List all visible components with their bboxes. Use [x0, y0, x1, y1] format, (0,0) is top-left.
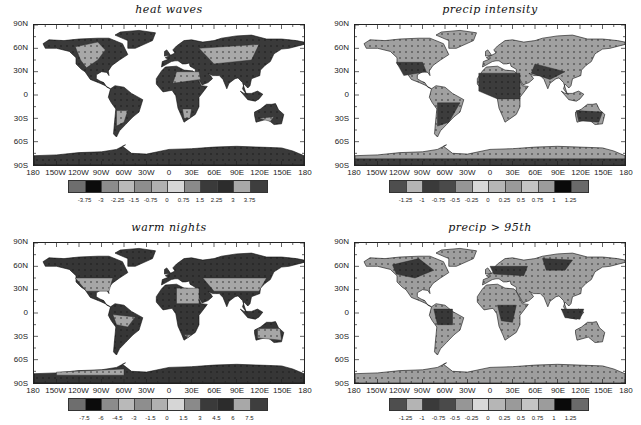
y-tick-label: 0	[2, 90, 28, 99]
colorbar-swatch	[456, 181, 473, 192]
colorbar-swatch	[218, 399, 235, 410]
colorbar-swatch	[69, 399, 86, 410]
colorbar	[68, 398, 268, 411]
y-tick-label: 60S	[2, 137, 28, 146]
y-tick-label: 30S	[323, 114, 349, 123]
y-tick-label: 0	[323, 90, 349, 99]
colorbar-swatch	[234, 181, 251, 192]
colorbar-swatch	[407, 181, 424, 192]
chart-title: precip intensity	[354, 3, 626, 16]
map-plot-area	[33, 242, 305, 384]
map-plot-area	[354, 242, 626, 384]
colorbar-swatch	[407, 399, 424, 410]
colorbar-swatch	[423, 181, 440, 192]
colorbar-label: 1.25	[561, 197, 581, 203]
colorbar-swatch	[86, 181, 103, 192]
colorbar-swatch	[119, 399, 136, 410]
y-tick-label: 30N	[323, 66, 349, 75]
y-tick-label: 90N	[323, 237, 349, 246]
colorbar-swatch	[539, 181, 556, 192]
y-tick-label: 30N	[2, 66, 28, 75]
colorbar-swatch	[539, 399, 556, 410]
colorbar	[68, 180, 268, 193]
colorbar-swatch	[185, 181, 202, 192]
colorbar-swatch	[572, 181, 589, 192]
colorbar-swatch	[440, 399, 457, 410]
map-plot-area	[33, 24, 305, 166]
colorbar-swatch	[489, 399, 506, 410]
colorbar-swatch	[506, 399, 523, 410]
x-tick-label: 180	[611, 386, 641, 395]
y-tick-label: 30S	[2, 332, 28, 341]
colorbar	[389, 180, 589, 193]
colorbar-swatch	[119, 181, 136, 192]
y-tick-label: 0	[323, 308, 349, 317]
colorbar-swatch	[152, 181, 169, 192]
x-tick-label: 180	[290, 386, 320, 395]
colorbar-swatch	[69, 181, 86, 192]
chart-title: heat waves	[33, 3, 305, 16]
y-tick-label: 60N	[2, 43, 28, 52]
y-tick-label: 60S	[323, 137, 349, 146]
colorbar-swatch	[489, 181, 506, 192]
y-tick-label: 90N	[323, 19, 349, 28]
colorbar-swatch	[168, 181, 185, 192]
y-tick-label: 30N	[2, 284, 28, 293]
panel-heat-waves: heat waves 90N60N30N030S60S90S180150W120…	[0, 0, 320, 212]
colorbar-swatch	[473, 181, 490, 192]
colorbar-swatch	[456, 399, 473, 410]
y-tick-label: 60S	[2, 355, 28, 364]
colorbar-swatch	[86, 399, 103, 410]
y-tick-label: 60N	[323, 261, 349, 270]
y-tick-label: 30N	[323, 284, 349, 293]
x-tick-label: 180	[611, 168, 641, 177]
colorbar-swatch	[423, 399, 440, 410]
colorbar-swatch	[522, 399, 539, 410]
panel-warm-nights: warm nights 90N60N30N030S60S90S180150W12…	[0, 218, 320, 425]
colorbar-swatch	[473, 399, 490, 410]
colorbar-swatch	[522, 181, 539, 192]
colorbar-label: 1.25	[561, 415, 581, 421]
map-plot-area	[354, 24, 626, 166]
y-tick-label: 60N	[323, 43, 349, 52]
y-tick-label: 90N	[2, 237, 28, 246]
panel-precip-intensity: precip intensity 90N60N30N030S60S90S1801…	[321, 0, 641, 212]
colorbar-swatch	[201, 399, 218, 410]
colorbar-swatch	[102, 399, 119, 410]
colorbar-swatch	[251, 181, 268, 192]
colorbar-swatch	[506, 181, 523, 192]
colorbar-swatch	[234, 399, 251, 410]
y-tick-label: 90N	[2, 19, 28, 28]
colorbar-swatch	[135, 399, 152, 410]
colorbar-swatch	[135, 181, 152, 192]
colorbar-swatch	[168, 399, 185, 410]
colorbar-swatch	[185, 399, 202, 410]
colorbar-label: 7.5	[240, 415, 260, 421]
y-tick-label: 30S	[2, 114, 28, 123]
colorbar-swatch	[555, 399, 572, 410]
colorbar-swatch	[152, 399, 169, 410]
chart-title: precip > 95th	[354, 221, 626, 234]
colorbar-swatch	[572, 399, 589, 410]
y-tick-label: 60N	[2, 261, 28, 270]
y-tick-label: 0	[2, 308, 28, 317]
y-tick-label: 30S	[323, 332, 349, 341]
colorbar-swatch	[440, 181, 457, 192]
colorbar-swatch	[218, 181, 235, 192]
colorbar-swatch	[102, 181, 119, 192]
panel-precip-95th: precip > 95th 90N60N30N030S60S90S180150W…	[321, 218, 641, 425]
y-tick-label: 60S	[323, 355, 349, 364]
colorbar-swatch	[555, 181, 572, 192]
colorbar-swatch	[201, 181, 218, 192]
colorbar-swatch	[390, 181, 407, 192]
colorbar	[389, 398, 589, 411]
colorbar-swatch	[390, 399, 407, 410]
x-tick-label: 180	[290, 168, 320, 177]
colorbar-swatch	[251, 399, 268, 410]
chart-title: warm nights	[33, 221, 305, 234]
colorbar-label: 3.75	[240, 197, 260, 203]
